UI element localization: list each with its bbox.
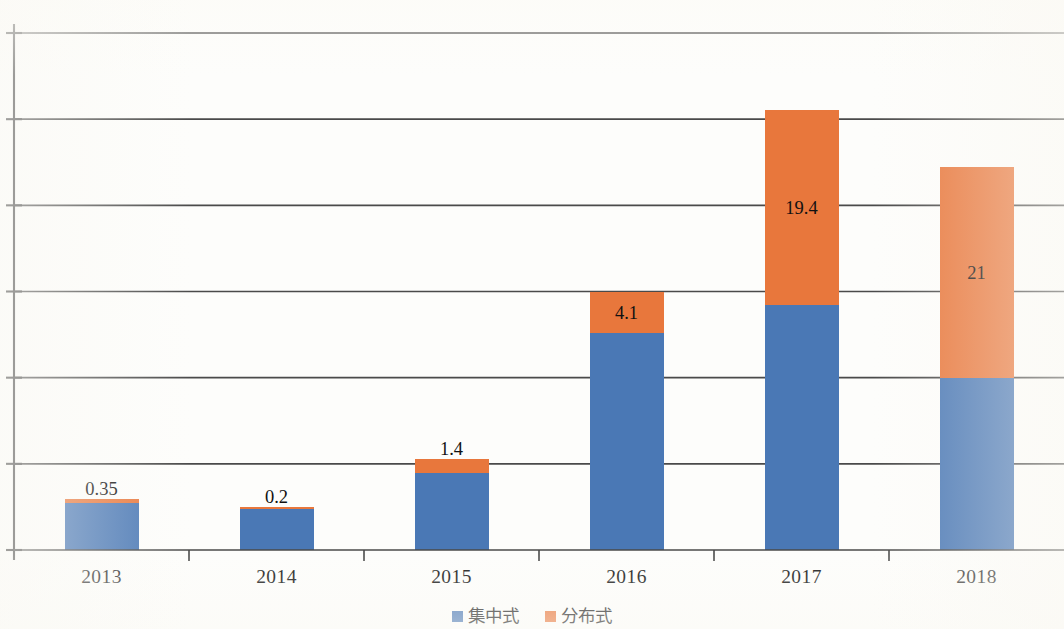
bars-group bbox=[65, 110, 1014, 550]
bar-data-label: 1.4 bbox=[440, 439, 463, 459]
x-axis-label: 2014 bbox=[256, 566, 297, 587]
x-axis-label: 2013 bbox=[81, 566, 122, 587]
stacked-bar-chart: 201320142015201620172018 0.350.21.44.119… bbox=[0, 0, 1064, 629]
legend-label-centralized: 集中式 bbox=[468, 608, 519, 626]
bar-segment-centralized bbox=[65, 503, 139, 550]
x-axis-label: 2018 bbox=[956, 566, 997, 587]
bar-segment-centralized bbox=[240, 509, 314, 550]
bar-segment-distributed bbox=[240, 507, 314, 510]
bar-segment-distributed bbox=[415, 459, 489, 473]
chart-plot-area: 201320142015201620172018 0.350.21.44.119… bbox=[0, 0, 1064, 629]
bar-segment-centralized bbox=[765, 305, 839, 550]
bar-data-label: 21 bbox=[967, 263, 986, 283]
x-tick-marks-group bbox=[189, 550, 889, 561]
legend-swatch-centralized bbox=[452, 611, 463, 622]
data-labels-group: 0.350.21.44.119.421 bbox=[85, 198, 985, 507]
bar-segment-centralized bbox=[415, 473, 489, 550]
x-axis-label: 2016 bbox=[606, 566, 647, 587]
gridlines-group bbox=[14, 33, 1064, 464]
x-axis-label: 2017 bbox=[781, 566, 822, 587]
legend-swatch-distributed bbox=[545, 611, 556, 622]
legend-entry-distributed: 分布式 bbox=[545, 608, 612, 626]
x-axis-label: 2015 bbox=[431, 566, 472, 587]
x-axis-labels-group: 201320142015201620172018 bbox=[81, 566, 997, 587]
legend-entry-centralized: 集中式 bbox=[452, 608, 519, 626]
bar-data-label: 4.1 bbox=[615, 303, 638, 323]
bar-segment-centralized bbox=[940, 378, 1014, 550]
bar-data-label: 0.2 bbox=[265, 487, 288, 507]
bar-data-label: 0.35 bbox=[85, 479, 117, 499]
bar-segment-centralized bbox=[590, 333, 664, 550]
chart-legend: 集中式 分布式 bbox=[0, 608, 1064, 626]
bar-data-label: 19.4 bbox=[785, 198, 817, 218]
bar-segment-distributed bbox=[65, 499, 139, 503]
legend-label-distributed: 分布式 bbox=[561, 608, 612, 626]
